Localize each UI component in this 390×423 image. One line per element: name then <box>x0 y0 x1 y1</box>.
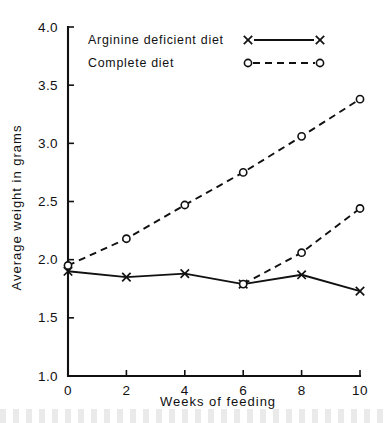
legend-marker <box>244 59 251 66</box>
y-axis-title: Average weight in grams <box>9 125 24 291</box>
chart-legend: Arginine deficient dietComplete diet <box>88 33 324 70</box>
series-point-marker <box>298 133 305 140</box>
y-tick-label: 1.0 <box>38 369 58 384</box>
series-point-marker <box>123 235 130 242</box>
x-axis-title: Weeks of feeding <box>160 394 276 409</box>
series-point-marker <box>356 205 363 212</box>
series-point-marker <box>356 96 363 103</box>
x-tick-label: 0 <box>64 383 72 398</box>
series-1 <box>64 267 364 295</box>
series-point-marker <box>64 262 71 269</box>
series-point-marker <box>240 280 247 287</box>
x-tick-label: 10 <box>352 383 368 398</box>
x-tick-label: 8 <box>298 383 306 398</box>
series-point-marker <box>240 169 247 176</box>
y-tick-label: 3.0 <box>38 136 58 151</box>
y-tick-label: 4.0 <box>38 20 58 35</box>
legend-label: Arginine deficient diet <box>88 33 224 47</box>
series-point-marker <box>298 249 305 256</box>
legend-label: Complete diet <box>88 56 174 70</box>
legend-marker <box>316 59 323 66</box>
y-tick-label: 2.0 <box>38 252 58 267</box>
series-2 <box>64 96 363 270</box>
axis-frame <box>68 27 360 376</box>
series-point-marker <box>181 201 188 208</box>
axes: 1.01.52.02.53.03.54.00246810 <box>38 20 368 399</box>
y-tick-label: 2.5 <box>38 194 58 209</box>
y-tick-label: 3.5 <box>38 78 58 93</box>
x-tick-label: 2 <box>122 383 130 398</box>
series-line <box>243 208 360 284</box>
figure-container: 1.01.52.02.53.03.54.00246810 Arginine de… <box>0 0 390 423</box>
y-tick-label: 1.5 <box>38 310 58 325</box>
line-chart: 1.01.52.02.53.03.54.00246810 Arginine de… <box>0 0 390 423</box>
data-series <box>64 96 364 296</box>
caption-smudge <box>0 409 390 423</box>
series-line <box>68 271 360 291</box>
